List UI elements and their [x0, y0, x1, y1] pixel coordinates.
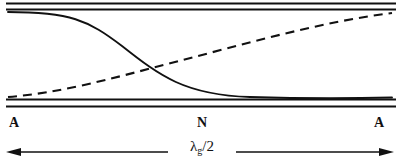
- dashed-field-curve: [8, 13, 392, 97]
- label-antinode-right: A: [374, 116, 384, 130]
- label-half-guide-wavelength: λg/2: [168, 139, 236, 156]
- standing-wave-waveguide-figure: A N A λg/2: [0, 0, 401, 166]
- label-antinode-left: A: [9, 116, 19, 130]
- dimension-arrow-head-right: [379, 148, 394, 156]
- lambda-divisor: /2: [202, 138, 214, 154]
- waveguide-bottom-wall: [6, 100, 396, 107]
- dimension-arrow-head-left: [6, 148, 21, 156]
- label-node-center: N: [197, 116, 207, 130]
- waveguide-top-wall: [6, 4, 396, 10]
